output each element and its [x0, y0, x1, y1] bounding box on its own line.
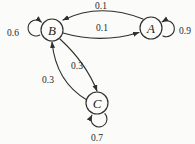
self-loop-label-A: 0.9	[179, 26, 191, 36]
edge-label-B-to-A: 0.1	[96, 23, 108, 33]
diagram-canvas: B A C 0.1 0.1 0.6 0.9 0.3 0.3 0.7	[0, 0, 195, 144]
self-loop-label-B: 0.6	[7, 28, 19, 38]
state-label-A: A	[146, 21, 155, 36]
state-label-C: C	[93, 96, 102, 111]
self-loop-A	[162, 21, 174, 37]
markov-chain-figure: B A C 0.1 0.1 0.6 0.9 0.3 0.3 0.7	[0, 0, 195, 144]
edge-C-to-B	[52, 42, 87, 100]
self-loop-B	[28, 20, 41, 36]
self-loop-label-C: 0.7	[91, 133, 103, 143]
edge-A-to-B	[63, 11, 143, 20]
edge-B-to-A	[63, 33, 139, 39]
self-loop-C	[91, 114, 107, 127]
edge-label-A-to-B: 0.1	[95, 1, 107, 11]
edge-label-B-to-C: 0.3	[71, 61, 83, 71]
state-label-B: B	[48, 23, 56, 38]
edge-label-C-to-B: 0.3	[42, 75, 54, 85]
